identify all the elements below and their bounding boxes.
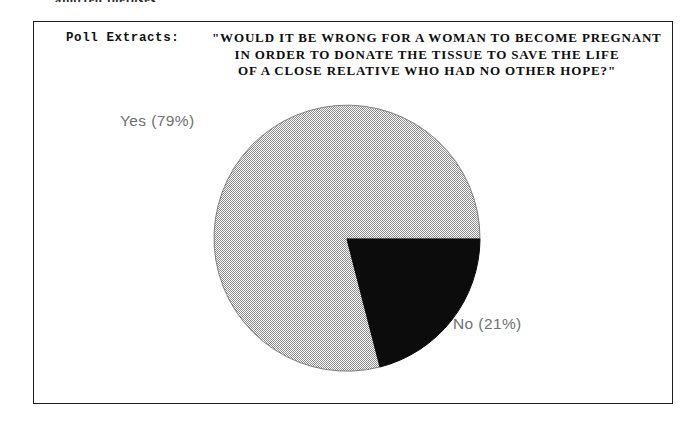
pie-chart-area: Yes (79%) No (21%)	[34, 22, 672, 403]
pie-label-yes: Yes (79%)	[120, 112, 195, 130]
pie-chart	[204, 96, 484, 386]
clipped-text-above-figure: aborted foetuses.	[55, 0, 161, 2]
poll-extract-figure: Poll Extracts: "WOULD IT BE WRONG FOR A …	[33, 21, 673, 404]
pie-label-no: No (21%)	[453, 315, 522, 333]
